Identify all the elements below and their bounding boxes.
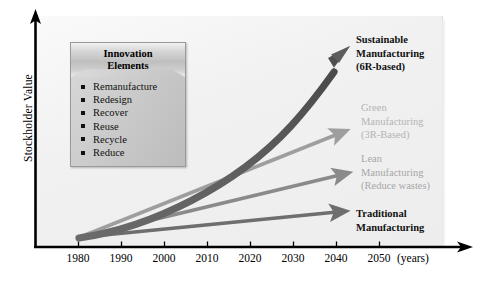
legend-item-list: Remanufacture Redesign Recover Reuse Rec…: [71, 77, 185, 166]
legend-header-line2: Elements: [73, 60, 183, 72]
x-tick-2000: 2000: [142, 252, 186, 264]
legend-item: Recover: [80, 106, 185, 119]
label-green-manufacturing: Green Manufacturing (3R-Based): [361, 101, 423, 142]
x-tick-1980: 1980: [56, 252, 100, 264]
x-tick-2040: 2040: [314, 252, 358, 264]
y-axis-title: Stockholder Value: [22, 38, 34, 198]
label-green-line3: (3R-Based): [361, 128, 423, 142]
label-green-line1: Green: [361, 101, 423, 115]
label-sustainable-line1: Sustainable: [356, 33, 424, 47]
label-green-line2: Manufacturing: [361, 115, 423, 129]
x-tick-2010: 2010: [185, 252, 229, 264]
curve-traditional: [79, 212, 337, 238]
legend-header: Innovation Elements: [71, 43, 185, 77]
legend-header-line1: Innovation: [73, 48, 183, 60]
label-sustainable-manufacturing: Sustainable Manufacturing (6R-based): [356, 33, 424, 74]
label-traditional-manufacturing: Traditional Manufacturing: [356, 207, 424, 234]
innovation-elements-legend: Innovation Elements Remanufacture Redesi…: [70, 42, 186, 167]
label-lean-line3: (Reduce wastes): [361, 179, 430, 193]
legend-item: Remanufacture: [80, 80, 185, 93]
x-tick-1990: 1990: [99, 252, 143, 264]
x-tick-2030: 2030: [271, 252, 315, 264]
label-sustainable-line2: Manufacturing: [356, 47, 424, 61]
x-tick-2020: 2020: [228, 252, 272, 264]
label-sustainable-line3: (6R-based): [356, 60, 424, 74]
manufacturing-evolution-figure: Stockholder Value 1980 1990 2000 2010 20…: [0, 0, 481, 283]
legend-item: Redesign: [80, 93, 185, 106]
legend-item: Reduce: [80, 146, 185, 159]
label-lean-line2: Manufacturing: [361, 166, 430, 180]
label-traditional-line2: Manufacturing: [356, 221, 424, 235]
label-traditional-line1: Traditional: [356, 207, 424, 221]
x-tick-2050: 2050: [357, 252, 401, 264]
label-lean-line1: Lean: [361, 152, 430, 166]
legend-item: Recycle: [80, 133, 185, 146]
x-axis-unit-label: (years): [397, 252, 429, 264]
x-axis: [34, 242, 473, 253]
label-lean-manufacturing: Lean Manufacturing (Reduce wastes): [361, 152, 430, 193]
legend-item: Reuse: [80, 120, 185, 133]
